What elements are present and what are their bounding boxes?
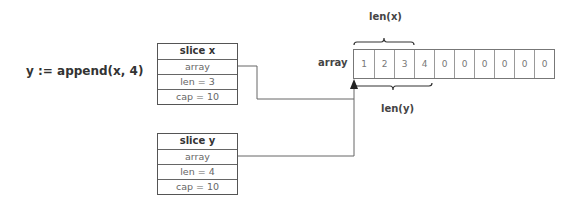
connectors-layer [0,0,575,206]
slice-x-pointer-line [238,66,354,99]
pointer-arrow-icon [350,79,358,89]
len-x-brace-icon [354,38,414,45]
len-y-brace-icon [354,83,432,90]
slice-y-pointer-line [238,86,354,156]
